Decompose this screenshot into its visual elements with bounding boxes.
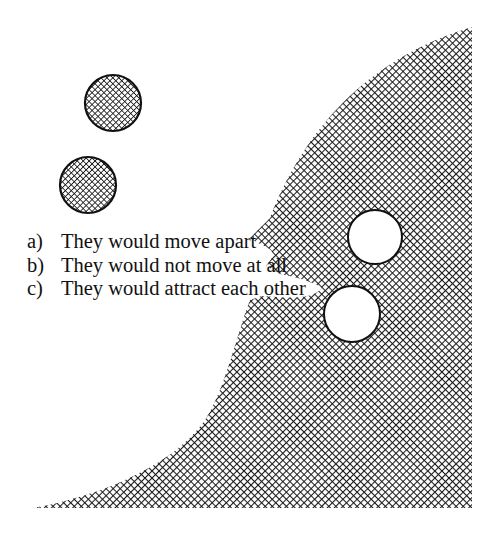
- option-letter: b): [27, 254, 61, 278]
- option-text: They would not move at all: [61, 254, 287, 278]
- option-letter: c): [27, 277, 61, 301]
- option-a: a) They would move apart: [27, 230, 306, 254]
- option-c: c) They would attract each other: [27, 277, 306, 301]
- white-circle-lower: [324, 286, 380, 342]
- white-circle-upper: [348, 210, 402, 264]
- hatched-circle-upper: [85, 75, 141, 131]
- option-text: They would attract each other: [61, 277, 306, 301]
- answer-options: a) They would move apart b) They would n…: [27, 230, 306, 301]
- hatched-circles: [60, 75, 141, 213]
- hatched-circle-lower: [60, 157, 116, 213]
- option-letter: a): [27, 230, 61, 254]
- option-text: They would move apart: [61, 230, 256, 254]
- option-b: b) They would not move at all: [27, 254, 306, 278]
